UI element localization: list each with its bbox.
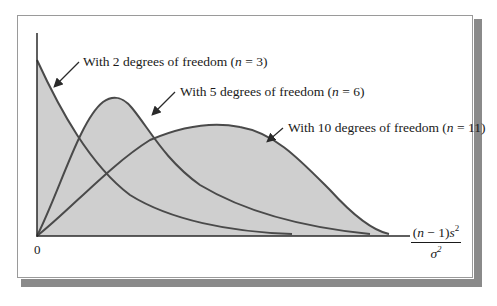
df2-arrow [55,62,79,86]
df10-arrow [268,128,283,141]
df10-label: With 10 degrees of freedom (n = 11) [288,121,485,135]
x-axis-label-denominator: σ2 [411,243,461,262]
df2-label: With 2 degrees of freedom (n = 3) [83,55,267,69]
df5-label: With 5 degrees of freedom (n = 6) [180,85,364,99]
origin-label: 0 [34,242,41,258]
x-axis-label-numerator: (n − 1)s2 [411,223,461,243]
x-axis-label: (n − 1)s2 σ2 [411,223,461,261]
df5-arrow [153,92,175,114]
